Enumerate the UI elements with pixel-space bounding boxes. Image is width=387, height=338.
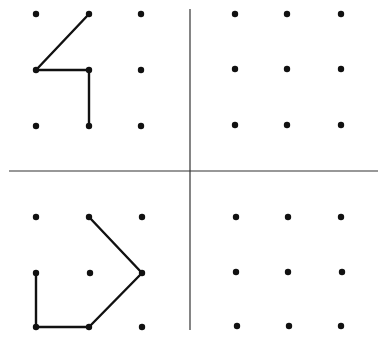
grid-dot: [87, 270, 93, 276]
quadrant-bottom-left: [33, 214, 145, 330]
grid-dot: [139, 270, 145, 276]
quadrant-top-right: [232, 11, 344, 128]
grid-dot: [33, 123, 39, 129]
grid-dot: [284, 66, 290, 72]
grid-dot: [284, 11, 290, 17]
grid-dot: [33, 67, 39, 73]
grid-dot: [338, 122, 344, 128]
grid-dot: [138, 67, 144, 73]
grid-dot: [338, 214, 344, 220]
quadrant-top-left: [33, 11, 144, 129]
grid-dot: [86, 324, 92, 330]
grid-dot: [139, 324, 145, 330]
grid-dot: [86, 67, 92, 73]
grid-dot: [338, 11, 344, 17]
grid-dot: [339, 269, 345, 275]
line-segment: [36, 14, 89, 70]
grid-dot: [33, 214, 39, 220]
grid-dot: [284, 122, 290, 128]
grid-dot: [234, 323, 240, 329]
grid-dot: [86, 123, 92, 129]
grid-dot: [86, 11, 92, 17]
grid-dot: [33, 11, 39, 17]
grid-dot: [286, 323, 292, 329]
quadrant-bottom-right: [233, 214, 345, 329]
grid-dot: [138, 123, 144, 129]
dot-grid-diagram: [0, 0, 387, 338]
grid-dot: [138, 11, 144, 17]
grid-dot: [33, 324, 39, 330]
grid-dot: [139, 214, 145, 220]
grid-dot: [232, 66, 238, 72]
grid-dot: [86, 214, 92, 220]
grid-dot: [338, 66, 344, 72]
grid-dot: [33, 270, 39, 276]
grid-dot: [232, 122, 238, 128]
grid-dot: [232, 11, 238, 17]
grid-dot: [233, 214, 239, 220]
line-segment: [89, 273, 142, 327]
quadrant-dividers: [9, 9, 378, 330]
line-segment: [89, 217, 142, 273]
grid-dot: [233, 269, 239, 275]
grid-dot: [285, 269, 291, 275]
grid-dot: [285, 214, 291, 220]
grid-dot: [338, 323, 344, 329]
